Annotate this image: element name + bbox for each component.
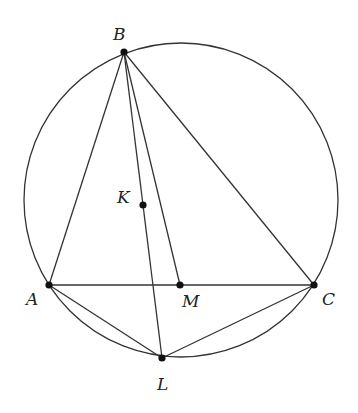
point-m [176, 281, 183, 288]
label-k: K [116, 187, 131, 207]
point-c [310, 281, 317, 288]
point-b [120, 48, 127, 55]
segment-al [49, 285, 162, 358]
label-a: A [24, 289, 38, 309]
circumcircle [24, 43, 338, 357]
label-c: C [322, 289, 335, 309]
point-a [45, 281, 52, 288]
segment-ba [49, 52, 124, 285]
label-l: L [156, 374, 168, 394]
point-l [158, 354, 165, 361]
label-b: B [112, 24, 126, 44]
points [45, 48, 317, 361]
label-m: M [181, 291, 200, 311]
geometry-diagram: BKAMCL [0, 0, 358, 413]
segments [49, 52, 314, 358]
point-k [139, 201, 146, 208]
labels: BKAMCL [24, 24, 335, 394]
